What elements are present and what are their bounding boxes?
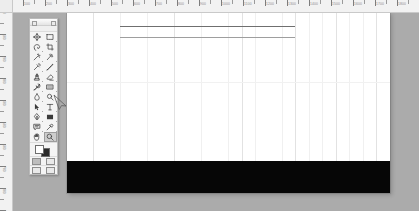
ruler-tick bbox=[364, 0, 365, 4]
ruler-label: 1200 bbox=[266, 2, 274, 6]
history-brush-tool[interactable] bbox=[30, 82, 44, 92]
ruler-tick bbox=[298, 0, 299, 4]
ruler-tick bbox=[0, 89, 4, 90]
ruler-label: 700 bbox=[156, 2, 162, 6]
palette-minimize-icon[interactable] bbox=[51, 21, 56, 26]
pen-tool[interactable] bbox=[30, 112, 44, 122]
ruler-tick bbox=[100, 0, 101, 4]
ruler-tick bbox=[0, 23, 4, 24]
notes-tool[interactable] bbox=[30, 122, 44, 132]
palette-close-icon[interactable] bbox=[32, 21, 37, 26]
ruler-label: 500 bbox=[2, 122, 6, 128]
ruler-tick bbox=[78, 0, 79, 4]
tool-grid[interactable] bbox=[30, 32, 57, 142]
ruler-tick bbox=[122, 0, 123, 4]
vertical-ruler[interactable]: 0100200300400500600700800900 bbox=[0, 0, 13, 211]
ruler-origin-corner[interactable] bbox=[0, 0, 13, 13]
shape-tool[interactable] bbox=[44, 112, 58, 122]
lower-rule bbox=[120, 37, 295, 38]
healing-brush-tool[interactable] bbox=[30, 62, 44, 72]
ruler-label: 800 bbox=[178, 2, 184, 6]
black-fill-band bbox=[67, 161, 390, 193]
slice-tool[interactable] bbox=[44, 52, 58, 62]
ruler-label: 800 bbox=[2, 188, 6, 194]
editor-window: 0100200300400500600700800900100011001200… bbox=[0, 0, 419, 211]
ruler-tick bbox=[0, 177, 4, 178]
ruler-tick bbox=[0, 67, 4, 68]
lasso-tool[interactable] bbox=[30, 42, 44, 52]
quick-mask-mode-button[interactable] bbox=[46, 158, 55, 165]
blur-tool[interactable] bbox=[30, 92, 44, 102]
ruler-label: 1500 bbox=[332, 2, 340, 6]
upper-rule bbox=[120, 26, 295, 27]
hand-tool[interactable] bbox=[30, 132, 44, 142]
ruler-label: 200 bbox=[2, 56, 6, 62]
ruler-tick bbox=[342, 0, 343, 4]
ruler-tick bbox=[0, 133, 4, 134]
ruler-label: 300 bbox=[2, 78, 6, 84]
edit-mode-buttons[interactable] bbox=[30, 156, 57, 165]
full-screen-mode-button[interactable] bbox=[46, 167, 55, 174]
ruler-label: 500 bbox=[112, 2, 118, 6]
eyedropper-tool[interactable] bbox=[44, 122, 58, 132]
move-tool[interactable] bbox=[30, 32, 44, 42]
palette-titlebar[interactable] bbox=[30, 19, 57, 26]
standard-mode-button[interactable] bbox=[32, 158, 41, 165]
ruler-label: 600 bbox=[134, 2, 140, 6]
ruler-tick bbox=[0, 45, 4, 46]
ruler-tick bbox=[34, 0, 35, 4]
ruler-label: 1700 bbox=[376, 2, 384, 6]
ruler-tick bbox=[56, 0, 57, 4]
ruler-label: 1000 bbox=[222, 2, 230, 6]
foreground-color-swatch[interactable] bbox=[35, 145, 44, 154]
ruler-tick bbox=[320, 0, 321, 4]
ruler-tick bbox=[0, 199, 4, 200]
ruler-label: 1600 bbox=[354, 2, 362, 6]
ruler-label: 400 bbox=[2, 100, 6, 106]
zoom-tool[interactable] bbox=[44, 132, 58, 142]
path-selection-tool[interactable] bbox=[30, 102, 44, 112]
brush-tool[interactable] bbox=[44, 62, 58, 72]
ruler-label: 600 bbox=[2, 144, 6, 150]
ruler-label: 900 bbox=[2, 210, 6, 211]
ruler-label: 100 bbox=[2, 34, 6, 40]
gradient-tool[interactable] bbox=[44, 82, 58, 92]
ruler-tick bbox=[144, 0, 145, 4]
ruler-tick bbox=[408, 0, 409, 4]
screen-mode-buttons[interactable] bbox=[30, 165, 57, 174]
ruler-tick bbox=[276, 0, 277, 4]
ruler-tick bbox=[166, 0, 167, 4]
ruler-tick bbox=[386, 0, 387, 4]
dodge-tool[interactable] bbox=[44, 92, 58, 102]
ruler-label: 1400 bbox=[310, 2, 318, 6]
ruler-label: 700 bbox=[2, 166, 6, 172]
horizontal-ruler[interactable]: 0100200300400500600700800900100011001200… bbox=[0, 0, 419, 13]
ruler-label: 200 bbox=[46, 2, 52, 6]
crop-tool[interactable] bbox=[44, 42, 58, 52]
ruler-tick bbox=[232, 0, 233, 4]
ruler-tick bbox=[254, 0, 255, 4]
ruler-tick bbox=[188, 0, 189, 4]
document-canvas[interactable] bbox=[67, 12, 390, 193]
ruler-label: 900 bbox=[200, 2, 206, 6]
ruler-tick bbox=[210, 0, 211, 4]
standard-screen-mode-button[interactable] bbox=[32, 167, 41, 174]
marquee-tool[interactable] bbox=[44, 32, 58, 42]
ruler-label: 300 bbox=[68, 2, 74, 6]
ruler-tick bbox=[0, 155, 4, 156]
horizontal-guide bbox=[67, 82, 390, 83]
clone-stamp-tool[interactable] bbox=[30, 72, 44, 82]
magic-wand-tool[interactable] bbox=[30, 52, 44, 62]
ruler-label: 100 bbox=[24, 2, 30, 6]
ruler-label: 1100 bbox=[244, 2, 252, 6]
ruler-label: 400 bbox=[90, 2, 96, 6]
type-tool[interactable] bbox=[44, 102, 58, 112]
tool-palette[interactable] bbox=[29, 18, 58, 175]
eraser-tool[interactable] bbox=[44, 72, 58, 82]
ruler-label: 1800 bbox=[398, 2, 406, 6]
ruler-tick bbox=[0, 111, 4, 112]
color-swatches[interactable] bbox=[30, 142, 57, 156]
ruler-label: 1300 bbox=[288, 2, 296, 6]
